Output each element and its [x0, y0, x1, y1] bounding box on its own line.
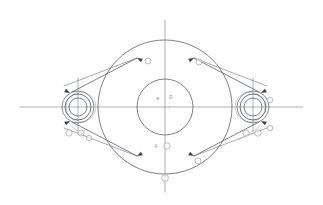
arrow-arc-upper-right	[188, 56, 195, 62]
marker-right-boss-b	[255, 130, 261, 136]
tangent-lower-left	[72, 122, 137, 156]
arrow-left-boss-lower	[64, 119, 71, 125]
marker-arc-upper-right	[196, 59, 202, 65]
technical-drawing-svg: øR⏐A	[0, 0, 323, 205]
leader-upper-left-secondary	[64, 58, 137, 86]
label-below-circle: A	[154, 143, 158, 149]
text-annotation-group: øR⏐A	[154, 94, 173, 149]
marker-arc-upper-left	[145, 58, 151, 64]
marker-below-inner-circle	[164, 143, 170, 149]
tangent-lower-right	[194, 122, 259, 156]
arrow-left-boss-upper	[64, 89, 71, 95]
arrow-arc-lower-left	[136, 152, 143, 158]
leader-upper-right-secondary	[194, 58, 267, 86]
marker-left-boss-a	[66, 130, 72, 136]
marker-left-boss-b	[78, 130, 84, 136]
tangent-upper-left	[72, 58, 137, 92]
marker-right-boss-d	[267, 97, 273, 103]
leader-lower-left-secondary	[64, 128, 137, 156]
arrow-right-boss-upper	[260, 89, 267, 95]
cad-drawing-canvas: øR⏐A	[0, 0, 323, 205]
centerline-group	[20, 20, 303, 192]
marker-right-boss-a	[243, 130, 249, 136]
label-inner-right: R	[169, 94, 173, 100]
arrow-right-boss-lower	[260, 119, 267, 125]
arrow-arc-upper-left	[136, 56, 143, 62]
arrow-arc-lower-right	[188, 152, 195, 158]
label-inner-left: ø	[156, 95, 159, 101]
marker-bottom-centerline	[162, 175, 169, 182]
small-leader-group	[72, 127, 259, 140]
label-inner-below: ⏐	[168, 105, 171, 111]
marker-right-boss-c	[267, 125, 273, 131]
marker-arc-lower-right	[195, 158, 201, 164]
marker-left-boss-c	[86, 135, 91, 140]
tangent-upper-right	[194, 58, 259, 92]
